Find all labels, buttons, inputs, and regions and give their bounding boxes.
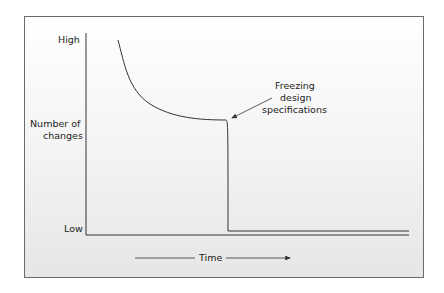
changes-curve (118, 40, 409, 231)
x-axis-label: Time (199, 252, 222, 264)
y-tick-low: Low (64, 223, 83, 235)
y-axis-label-line1: Number of (30, 118, 80, 130)
y-tick-high: High (58, 34, 80, 46)
annotation-line1: Freezing (275, 80, 315, 92)
annotation-line2: design (280, 92, 312, 104)
annotation-line3: specifications (262, 104, 327, 116)
y-axis-label-line2: changes (43, 130, 83, 142)
